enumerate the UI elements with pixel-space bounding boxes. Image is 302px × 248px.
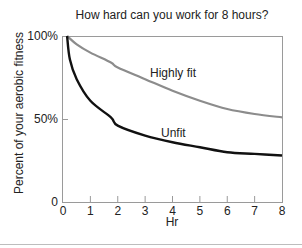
x-tick-marks (90, 196, 254, 202)
bottom-divider (0, 244, 302, 245)
highly-fit-label: Highly fit (150, 66, 197, 80)
plot-frame (63, 37, 283, 203)
x-axis-label: Hr (62, 215, 282, 229)
unfit-label: Unfit (161, 126, 186, 140)
